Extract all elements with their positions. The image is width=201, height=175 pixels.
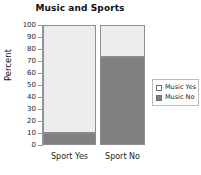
y-axis-ticks: 1009080706050403020100 (0, 0, 36, 175)
bar-segment-music-yes[interactable] (100, 25, 145, 57)
bar-sport-no[interactable] (100, 25, 145, 145)
plot-area (43, 25, 145, 145)
y-tick-mark (38, 109, 42, 110)
y-tick-label: 80 (2, 46, 36, 53)
legend-item-music-no[interactable]: Music No (156, 93, 195, 102)
y-tick-label: 0 (2, 142, 36, 149)
y-tick-label: 60 (2, 70, 36, 77)
bar-segment-music-no[interactable] (100, 57, 145, 145)
y-tick-mark (38, 85, 42, 86)
y-tick-label: 90 (2, 34, 36, 41)
y-tick-mark (38, 49, 42, 50)
y-tick-mark (38, 73, 42, 74)
y-tick-mark (38, 97, 42, 98)
y-tick-mark (38, 61, 42, 62)
bar-segment-music-no[interactable] (43, 133, 96, 145)
y-tick-label: 30 (2, 106, 36, 113)
legend-item-music-yes[interactable]: Music Yes (156, 83, 195, 92)
y-tick-mark (38, 37, 42, 38)
y-tick-label: 70 (2, 58, 36, 65)
y-tick-mark (38, 25, 42, 26)
y-tick-label: 100 (2, 22, 36, 29)
bar-segment-music-yes[interactable] (43, 25, 96, 133)
y-tick-label: 10 (2, 130, 36, 137)
x-tick-label: Sport No (100, 152, 145, 161)
legend-label: Music Yes (165, 84, 196, 91)
y-tick-mark (38, 145, 42, 146)
legend-swatch-icon (156, 85, 162, 91)
y-tick-label: 50 (2, 82, 36, 89)
legend-swatch-icon (156, 95, 162, 101)
legend-label: Music No (165, 94, 194, 101)
chart-legend: Music Yes Music No (152, 79, 199, 106)
bar-sport-yes[interactable] (43, 25, 96, 145)
y-tick-mark (38, 133, 42, 134)
chart-container: Music and Sports Percent 100908070605040… (0, 0, 201, 175)
y-tick-label: 20 (2, 118, 36, 125)
y-tick-label: 40 (2, 94, 36, 101)
x-tick-label: Sport Yes (43, 152, 96, 161)
y-tick-mark (38, 121, 42, 122)
